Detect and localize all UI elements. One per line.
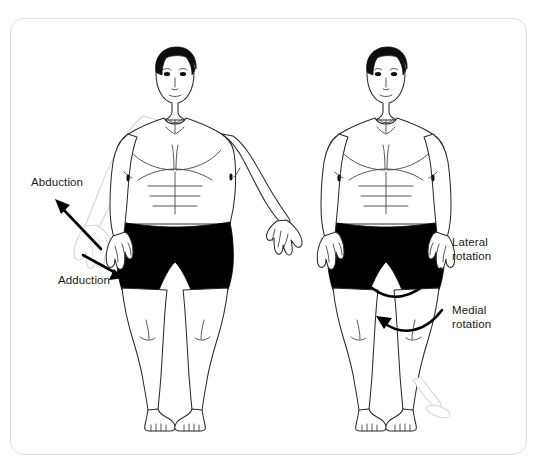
ghost-rotated-foot — [413, 377, 450, 418]
label-medial-rotation: Medial rotation — [452, 304, 491, 331]
label-lateral-rotation: Lateral rotation — [452, 236, 491, 263]
right-figure — [317, 47, 455, 431]
left-figure — [74, 47, 302, 431]
anatomy-diagram: .sk{fill:#ffffff;stroke:#2b2b2b;stroke-w… — [0, 0, 543, 474]
label-abduction: Abduction — [31, 176, 83, 190]
label-adduction: Adduction — [58, 274, 110, 288]
